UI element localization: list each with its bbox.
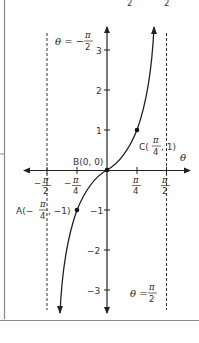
svg-text:, 1): , 1)	[161, 142, 176, 152]
point-c	[135, 128, 140, 133]
svg-text:θ = −: θ = −	[55, 36, 84, 47]
asymptote-left-label: θ = − π 2	[55, 30, 93, 52]
svg-text:π: π	[42, 175, 49, 185]
svg-text:4: 4	[40, 211, 45, 221]
theta-axis-label: θ	[180, 152, 186, 163]
asymptote-right-label: θ = π 2	[130, 282, 157, 304]
svg-text:4: 4	[153, 147, 158, 157]
svg-text:2: 2	[85, 42, 90, 52]
svg-text:, −1): , −1)	[48, 206, 71, 216]
curve-arrow-up	[151, 26, 157, 34]
x-label-neg-pi-over-2: − π 2	[34, 175, 51, 196]
svg-text:π: π	[72, 175, 79, 185]
y-label-1: 1	[96, 126, 102, 136]
svg-text:4: 4	[73, 186, 78, 196]
top-partial-digit-1: 2	[127, 0, 132, 8]
svg-text:π: π	[39, 199, 46, 209]
x-label-pi-over-2: π 2	[161, 175, 170, 196]
point-c-label: C( π 4 , 1)	[139, 135, 176, 157]
x-label-neg-pi-over-4: − π 4	[64, 175, 81, 196]
svg-text:π: π	[132, 175, 139, 185]
y-label-3: 3	[96, 46, 102, 56]
svg-text:2: 2	[43, 186, 48, 196]
svg-text:π: π	[161, 175, 168, 185]
point-a-label: A(− π 4 , −1)	[16, 199, 71, 221]
svg-text:π: π	[152, 135, 159, 145]
y-label-neg2: −2	[87, 246, 100, 256]
svg-text:4: 4	[133, 186, 138, 196]
top-partial-digit-2: 2	[164, 0, 169, 8]
curve-arrow-down	[57, 306, 63, 314]
svg-text:C(: C(	[139, 142, 149, 152]
tangent-graph: 2 2 3 2 1 −1 −2 −3 − π 2 − π 4	[0, 0, 199, 343]
svg-text:A(−: A(−	[16, 206, 33, 216]
point-b	[105, 168, 110, 173]
svg-text:2: 2	[149, 294, 154, 304]
x-label-pi-over-4: π 4	[132, 175, 141, 196]
svg-text:π: π	[148, 282, 155, 292]
svg-text:θ =: θ =	[130, 288, 148, 299]
svg-text:−: −	[64, 178, 71, 188]
y-label-neg1: −1	[90, 206, 103, 216]
y-label-neg3: −3	[87, 286, 100, 296]
svg-text:−: −	[34, 178, 41, 188]
point-a	[75, 208, 80, 213]
svg-text:π: π	[84, 30, 91, 40]
point-b-label: B(0, 0)	[73, 157, 103, 167]
y-label-2: 2	[96, 86, 102, 96]
svg-text:2: 2	[162, 186, 167, 196]
